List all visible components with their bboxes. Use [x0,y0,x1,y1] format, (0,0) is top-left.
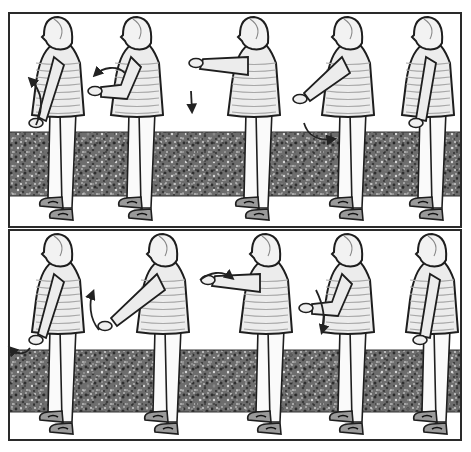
hand [189,59,203,68]
shoe [424,423,447,434]
shoe [414,411,437,422]
shoe [119,197,142,208]
hand [299,304,313,313]
shoe [330,197,353,208]
shoe [258,423,281,434]
shoe [340,423,363,434]
shoe [236,197,259,208]
illustration-canvas [0,0,471,452]
hand [98,322,112,331]
shoe [246,209,269,220]
hand [29,336,43,345]
hand [413,336,427,345]
motion-arrow-icon [191,91,192,111]
shoe [129,209,152,220]
shoe [248,411,271,422]
hand [409,119,423,128]
shoe [340,209,363,220]
shoe [50,209,73,220]
panel-top [9,13,461,227]
shoe [330,411,353,422]
shoe [420,209,443,220]
shoe [40,411,63,422]
shoe [145,411,168,422]
shoe [40,197,63,208]
panel-bottom [9,230,461,440]
hand [293,95,307,104]
exercise-illustration [0,0,471,452]
hand [88,87,102,96]
shoe [155,423,178,434]
shoe [50,423,73,434]
shoe [410,197,433,208]
